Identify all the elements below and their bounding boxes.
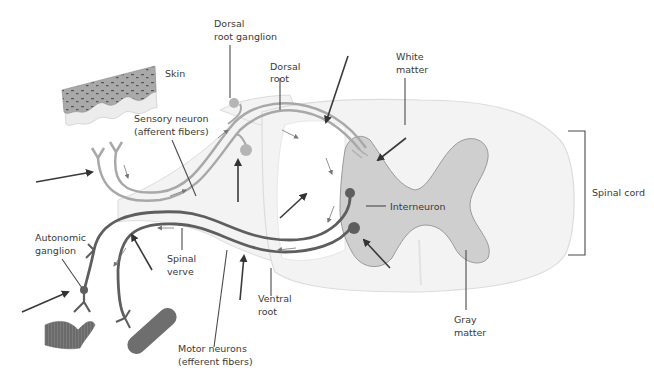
label-skin: Skin — [165, 68, 185, 79]
label-autonomic-ganglion: Autonomic ganglion — [35, 232, 89, 256]
label-interneuron: Interneuron — [390, 201, 446, 212]
smooth-muscle-effector — [45, 321, 95, 348]
motor-cell-body — [348, 222, 360, 234]
dorsal-root-ganglion-cell — [229, 98, 239, 108]
label-sensory-neuron: Sensory neuron (afferent fibers) — [134, 113, 212, 137]
reflex-arc-diagram: Dorsal root ganglion Dorsal root White m… — [0, 0, 654, 379]
label-gray-matter: Gray matter — [454, 314, 486, 338]
interneuron-cell — [345, 188, 355, 198]
label-dorsal-root-ganglion: Dorsal root ganglion — [214, 18, 277, 42]
label-spinal-nerve: Spinal verve — [167, 253, 199, 277]
label-motor-neurons: Motor neurons (efferent fibers) — [178, 343, 253, 367]
label-ventral-root: Ventral root — [258, 293, 295, 317]
label-white-matter: White matter — [396, 51, 428, 75]
label-spinal-cord: Spinal cord — [592, 187, 645, 198]
label-dorsal-root: Dorsal root — [270, 61, 303, 84]
sensory-cell-body — [240, 144, 252, 156]
skeletal-muscle-effector — [124, 304, 181, 358]
